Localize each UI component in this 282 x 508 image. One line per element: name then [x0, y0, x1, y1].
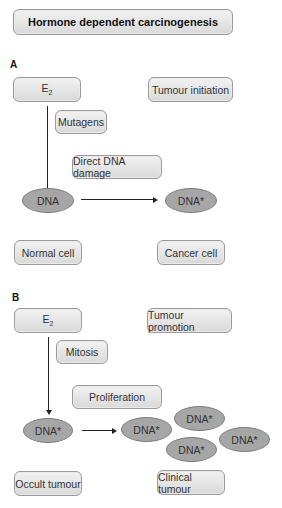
clinical-text: Clinical tumour	[158, 471, 224, 495]
proliferation-box: Proliferation	[72, 385, 162, 409]
cancer-cell-text: Cancer cell	[165, 247, 218, 259]
arrow-e2-to-dna-b	[48, 337, 49, 412]
arrowhead-icon	[153, 197, 158, 203]
mutagens-box: Mutagens	[55, 110, 107, 134]
tumour-promotion-box: Tumour promotion	[147, 308, 232, 333]
normal-cell-text: Normal cell	[22, 247, 75, 259]
dna-ellipse: DNA	[22, 188, 74, 213]
stage-text: Tumour promotion	[148, 309, 231, 333]
dna-star-text: DNA*	[133, 424, 159, 436]
mutated-dna-ellipse: DNA*	[23, 418, 73, 443]
cluster-dna-1: DNA*	[121, 417, 172, 442]
direct-dna-damage-box: Direct DNA damage	[72, 155, 162, 179]
occult-text: Occult tumour	[15, 478, 80, 490]
e2-text: E2	[43, 313, 54, 327]
e2-text: E2	[42, 82, 53, 96]
cancer-cell-box: Cancer cell	[157, 240, 225, 265]
stage-text: Tumour initiation	[152, 84, 229, 96]
cluster-dna-3: DNA*	[219, 427, 270, 452]
mutagens-text: Mutagens	[58, 116, 104, 128]
cluster-dna-4: DNA*	[166, 437, 217, 462]
damage-text: Direct DNA damage	[73, 155, 161, 179]
e2-box-a: E2	[13, 77, 81, 102]
occult-tumour-box: Occult tumour	[14, 471, 82, 496]
arrow-e2-to-dna-a	[47, 106, 48, 191]
dna-star-text: DNA*	[231, 434, 257, 446]
e2-box-b: E2	[14, 308, 82, 333]
clinical-tumour-box: Clinical tumour	[157, 470, 225, 495]
arrow-dna-to-cluster	[82, 430, 112, 431]
tumour-initiation-box: Tumour initiation	[148, 77, 233, 102]
title-text: Hormone dependent carcinogenesis	[28, 16, 218, 28]
cluster-dna-2: DNA*	[174, 406, 225, 431]
arrowhead-icon	[46, 410, 52, 415]
mutated-dna-ellipse: DNA*	[165, 188, 217, 213]
dna-text: DNA	[37, 195, 59, 207]
normal-cell-box: Normal cell	[14, 240, 82, 265]
mitosis-box: Mitosis	[56, 340, 108, 364]
arrowhead-icon	[112, 428, 117, 434]
dna-star-text: DNA*	[35, 425, 61, 437]
mitosis-text: Mitosis	[66, 346, 99, 358]
dna-star-text: DNA*	[186, 413, 212, 425]
diagram-title: Hormone dependent carcinogenesis	[13, 9, 233, 35]
arrow-dna-to-mutated	[81, 199, 153, 200]
dna-star-text: DNA*	[178, 195, 204, 207]
panel-a-label: A	[10, 59, 17, 70]
proliferation-text: Proliferation	[89, 391, 145, 403]
panel-b-label: B	[12, 292, 19, 303]
dna-star-text: DNA*	[178, 444, 204, 456]
